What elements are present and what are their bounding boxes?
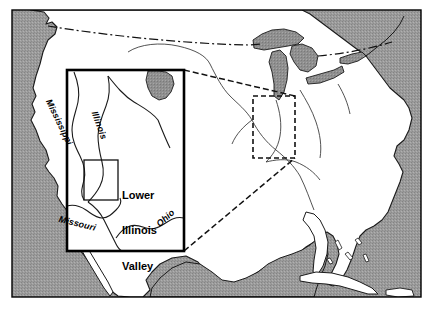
study-area-label: Lower Illinois Valley: [122, 166, 157, 297]
map-graphic: [0, 0, 433, 310]
study-area-label-line3: Valley: [122, 261, 157, 273]
hispaniola: [386, 288, 414, 297]
locator-map-figure: Mississippi Illinois Missouri Ohio Lower…: [0, 0, 433, 310]
study-area-label-line1: Lower: [122, 190, 157, 202]
study-area-label-line2: Illinois: [122, 225, 157, 237]
map-body: [12, 10, 421, 297]
